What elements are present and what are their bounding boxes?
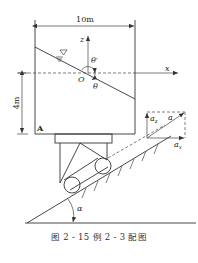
incline-hatching [82,144,158,198]
accel-z-label: az [150,114,158,124]
base-plate [55,134,112,143]
alpha-label: α [77,204,83,213]
x-axis-label: x [165,64,170,73]
accel-x-label: ax [174,140,183,150]
origin-label: O [78,75,85,84]
tank [35,20,135,134]
diagram: 10m 4m x z θ′ O θ A [0,0,198,263]
width-dimension: 10m [36,15,134,26]
incline-surface [27,136,171,223]
accel-label: a [168,113,173,122]
point-a-label: A [36,123,44,133]
height-dimension: 4m [12,73,28,134]
wheel-upper [95,158,111,174]
alpha-arc [68,199,74,222]
figure-caption: 图 2 - 15 例 2 - 3 配图 [0,230,198,242]
z-axis-label: z [79,35,85,44]
carriage [60,125,165,190]
free-surface-icon [56,50,67,61]
height-label: 4m [12,96,21,109]
theta-prime-label: θ′ [91,56,98,65]
acceleration-diagram: az a ax [147,112,185,150]
width-label: 10m [76,15,94,24]
theta-label: θ [93,82,98,91]
